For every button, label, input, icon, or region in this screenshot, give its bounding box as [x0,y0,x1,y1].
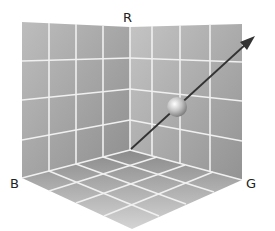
sphere [167,97,187,117]
axis-label-r: R [123,10,132,25]
cube-graphic [0,0,275,231]
axis-label-b: B [10,176,19,191]
rgb-cube-diagram: R B G [0,0,275,231]
axis-label-g: G [246,176,256,191]
